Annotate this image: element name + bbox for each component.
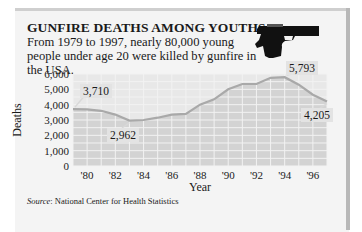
y-tick-label: 0: [64, 160, 70, 172]
y-tick-label: 2,000: [44, 129, 69, 141]
source-note: Source: National Center for Health Stati…: [27, 196, 178, 206]
x-tick-label: '86: [165, 169, 178, 181]
svg-text:5,793: 5,793: [289, 62, 315, 75]
x-tick-label: '80: [81, 169, 94, 181]
y-tick-label: 1,000: [44, 145, 69, 157]
x-tick-label: '96: [306, 169, 319, 181]
y-tick-label: 4,000: [44, 99, 69, 111]
y-tick-label: 5,000: [44, 83, 69, 95]
svg-text:4,205: 4,205: [304, 109, 330, 122]
x-axis-title: Year: [189, 180, 211, 194]
x-tick-label: '94: [278, 169, 291, 181]
x-tick-label: '84: [137, 169, 150, 181]
y-tick-label: 6,000: [44, 68, 69, 80]
x-tick-label: '90: [222, 169, 235, 181]
svg-text:2,962: 2,962: [110, 129, 136, 142]
y-axis-title: Deaths: [10, 103, 24, 137]
y-tick-label: 3,000: [44, 114, 69, 126]
svg-text:3,710: 3,710: [83, 85, 109, 98]
x-tick-label: '92: [250, 169, 263, 181]
x-tick-label: '82: [109, 169, 122, 181]
data-label: 5,793: [286, 61, 318, 75]
